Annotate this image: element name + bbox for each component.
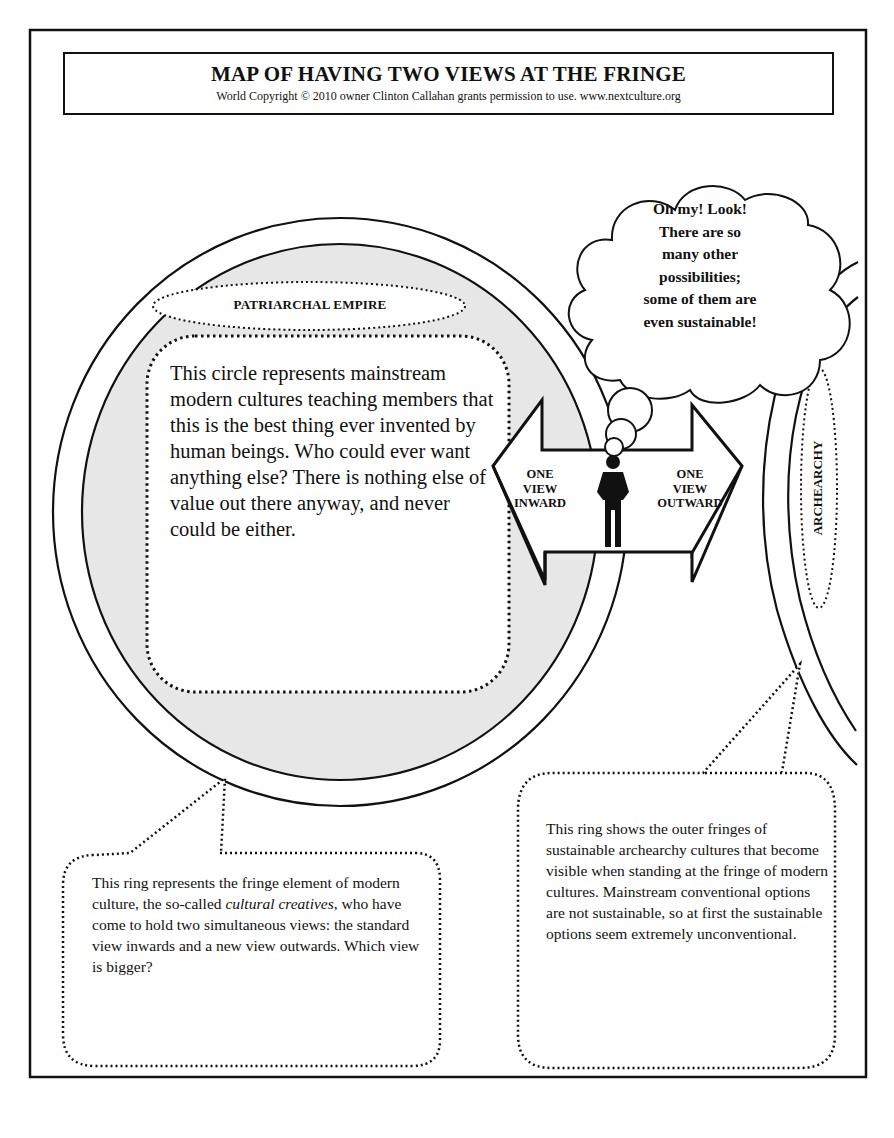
thought-bubble-small — [605, 438, 623, 456]
title-box: MAP OF HAVING TWO VIEWS AT THE FRINGE Wo… — [63, 52, 834, 115]
thought-line: many other — [600, 243, 800, 266]
cultural-creatives-term: cultural creatives — [225, 895, 333, 912]
view-outward-line: ONE — [640, 467, 740, 482]
view-outward-line: VIEW — [640, 482, 740, 497]
thought-cloud-text: Oh my! Look! There are so many other pos… — [600, 198, 800, 333]
empire-description-text: This circle represents mainstream modern… — [170, 360, 500, 542]
view-outward-label: ONE VIEW OUTWARD — [640, 467, 740, 511]
thought-line: some of them are — [600, 288, 800, 311]
archearchy-callout-text: This ring shows the outer fringes of sus… — [546, 818, 831, 944]
view-inward-line: INWARD — [500, 496, 580, 511]
page-title: MAP OF HAVING TWO VIEWS AT THE FRINGE — [65, 62, 832, 87]
view-inward-label: ONE VIEW INWARD — [500, 467, 580, 511]
view-inward-line: VIEW — [500, 482, 580, 497]
copyright-notice: World Copyright © 2010 owner Clinton Cal… — [65, 89, 832, 104]
archearchy-label: ARCHEARCHY — [810, 441, 826, 536]
thought-line: possibilities; — [600, 266, 800, 289]
fringe-callout-text: This ring represents the fringe element … — [92, 872, 432, 977]
thought-line: Oh my! Look! — [600, 198, 800, 221]
view-inward-line: ONE — [500, 467, 580, 482]
diagram-page: MAP OF HAVING TWO VIEWS AT THE FRINGE Wo… — [0, 0, 894, 1138]
thought-line: There are so — [600, 221, 800, 244]
thought-line: even sustainable! — [600, 311, 800, 334]
view-outward-line: OUTWARD — [640, 496, 740, 511]
patriarchal-empire-label: PATRIARCHAL EMPIRE — [200, 297, 420, 313]
